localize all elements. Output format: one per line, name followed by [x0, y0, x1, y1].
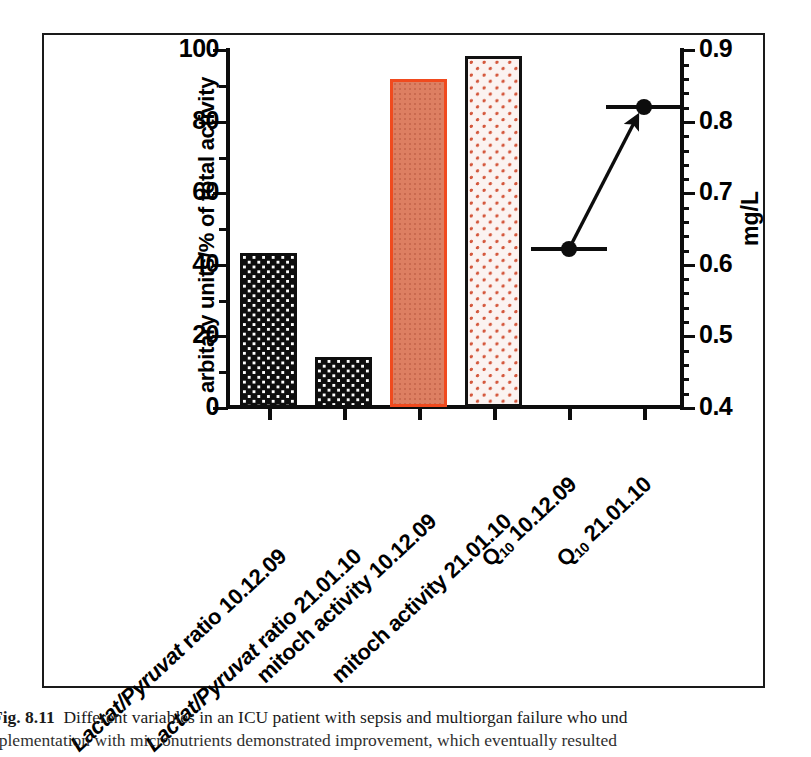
figure-caption: Fig. 8.11 Different variables in an ICU …: [0, 706, 811, 752]
caption-figure-number: Fig. 8.11: [0, 707, 55, 727]
caption-text-line2: pplementation with micronutrients demons…: [0, 729, 811, 752]
caption-text-line1: Different variables in an ICU patient wi…: [63, 707, 627, 727]
figure-frame: [42, 33, 765, 688]
